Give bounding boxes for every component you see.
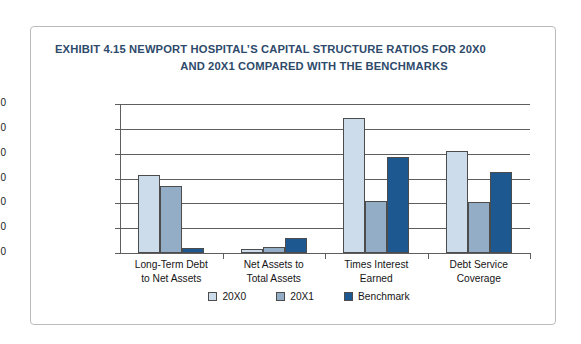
gridline [120, 104, 530, 105]
x-axis-category-label-line: Debt Service [428, 258, 531, 272]
x-axis-category-label-line: Coverage [428, 272, 531, 286]
y-axis-tick-mark [115, 253, 120, 254]
bar-benchmark-1 [182, 248, 204, 253]
x-axis-category-label: Debt ServiceCoverage [428, 258, 531, 285]
x-axis-category-label-line: Net Assets to [223, 258, 326, 272]
y-axis-tick-label: 2.0 [0, 196, 6, 207]
x-axis-category-label: Net Assets toTotal Assets [223, 258, 326, 285]
chart-legend: 20X020X1Benchmark [31, 291, 557, 302]
legend-label: Benchmark [358, 291, 410, 302]
x-axis-tick-mark [530, 254, 531, 259]
y-axis-tick-mark [115, 104, 120, 105]
bar-20x1-1 [160, 186, 182, 253]
bar-benchmark-3 [387, 157, 409, 253]
bar-20x1-4 [468, 202, 490, 253]
x-axis-category-label-line: Times Interest [325, 258, 428, 272]
legend-item-20x1[interactable]: 20X1 [276, 291, 314, 302]
chart-plot-area: 0.01.02.03.04.05.06.0 [120, 104, 530, 253]
legend-label: 20X1 [290, 291, 314, 302]
legend-item-20x0[interactable]: 20X0 [208, 291, 246, 302]
bar-20x0-2 [241, 249, 263, 253]
x-axis-category-label-line: Total Assets [223, 272, 326, 286]
y-axis-tick-label: 6.0 [0, 97, 6, 108]
bar-benchmark-2 [285, 238, 307, 253]
y-axis-tick-label: 1.0 [0, 221, 6, 232]
y-axis-tick-label: 5.0 [0, 122, 6, 133]
x-axis-category-label-line: Earned [325, 272, 428, 286]
legend-label: 20X0 [222, 291, 246, 302]
bar-20x0-1 [138, 175, 160, 253]
legend-swatch-icon [276, 292, 285, 301]
x-axis-category-label: Times InterestEarned [325, 258, 428, 285]
y-axis-tick-mark [115, 154, 120, 155]
y-axis-tick-label: 3.0 [0, 172, 6, 183]
y-axis-tick-mark [115, 129, 120, 130]
gridline [120, 179, 530, 180]
legend-swatch-icon [208, 292, 217, 301]
gridline [120, 154, 530, 155]
x-axis-category-label: Long-Term Debtto Net Assets [120, 258, 223, 285]
x-axis-category-label-line: to Net Assets [120, 272, 223, 286]
bar-20x0-3 [343, 118, 365, 253]
legend-swatch-icon [344, 292, 353, 301]
x-axis-category-label-line: Long-Term Debt [120, 258, 223, 272]
chart-plot-wrapper: 0.01.02.03.04.05.06.0 Long-Term Debtto N… [31, 27, 557, 326]
y-axis-tick-mark [115, 228, 120, 229]
y-axis-tick-label: 0.0 [0, 246, 6, 257]
y-axis-tick-mark [115, 203, 120, 204]
y-axis-tick-label: 4.0 [0, 147, 6, 158]
bar-20x1-3 [365, 201, 387, 253]
y-axis-tick-mark [115, 179, 120, 180]
bar-20x0-4 [446, 151, 468, 253]
bar-20x1-2 [263, 247, 285, 253]
gridline [120, 129, 530, 130]
figure-frame: EXHIBIT 4.15 NEWPORT HOSPITAL’S CAPITAL … [30, 26, 556, 325]
legend-item-benchmark[interactable]: Benchmark [344, 291, 410, 302]
bar-benchmark-4 [490, 172, 512, 253]
